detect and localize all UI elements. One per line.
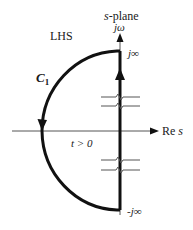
imaginary-axis-arrow-icon	[117, 33, 124, 42]
contour-label: C1	[36, 70, 50, 87]
region-label: LHS	[50, 29, 73, 43]
real-axis-label: Re s	[162, 124, 183, 138]
contour-up-arrow-icon	[115, 68, 125, 80]
top-limit-label: j∞	[126, 47, 139, 59]
condition-label: t > 0	[71, 137, 93, 149]
s-plane-diagram: s-plane jω LHS j∞ C1 Re s t > 0 -j∞	[0, 0, 193, 230]
real-axis-arrow-icon	[150, 128, 159, 135]
contour-down-arrow-icon	[38, 119, 48, 131]
imaginary-axis-label: jω	[112, 21, 125, 33]
bottom-limit-label: -j∞	[127, 205, 142, 217]
